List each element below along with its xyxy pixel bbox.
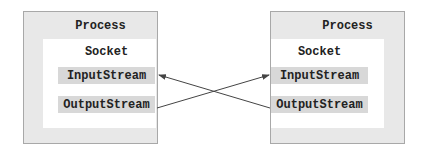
connection-arrows [0,0,427,153]
